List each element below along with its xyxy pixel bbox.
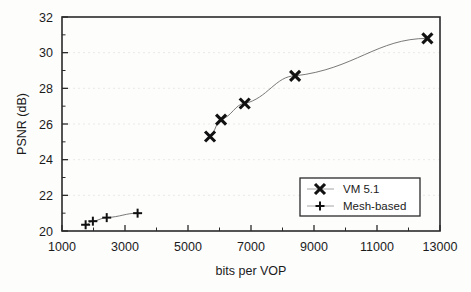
chart-legend: VM 5.1Mesh-based xyxy=(300,178,420,216)
x-tick-label-5000: 5000 xyxy=(174,240,202,254)
psnr-vs-bitrate-chart: 100030005000700090001100013000 202224262… xyxy=(0,0,471,292)
y-tick-label-30: 30 xyxy=(39,46,53,60)
x-tick-label-13000: 13000 xyxy=(423,240,458,254)
x-tick-label-11000: 11000 xyxy=(360,240,394,254)
y-tick-label-22: 22 xyxy=(39,189,53,203)
x-tick-label-3000: 3000 xyxy=(111,240,139,254)
y-tick-label-28: 28 xyxy=(39,82,53,96)
y-axis-title: PSNR (dB) xyxy=(15,93,29,155)
y-tick-label-26: 26 xyxy=(39,118,53,132)
x-tick-label-7000: 7000 xyxy=(237,240,265,254)
chart-figure: 100030005000700090001100013000 202224262… xyxy=(0,0,471,292)
x-tick-label-9000: 9000 xyxy=(300,240,328,254)
x-tick-label-1000: 1000 xyxy=(48,240,76,254)
x-axis-title: bits per VOP xyxy=(216,264,287,278)
legend-label-1: Mesh-based xyxy=(343,200,406,212)
legend-label-0: VM 5.1 xyxy=(343,183,379,195)
y-tick-label-24: 24 xyxy=(39,153,53,167)
y-tick-label-32: 32 xyxy=(39,11,53,25)
y-tick-label-20: 20 xyxy=(39,225,53,239)
